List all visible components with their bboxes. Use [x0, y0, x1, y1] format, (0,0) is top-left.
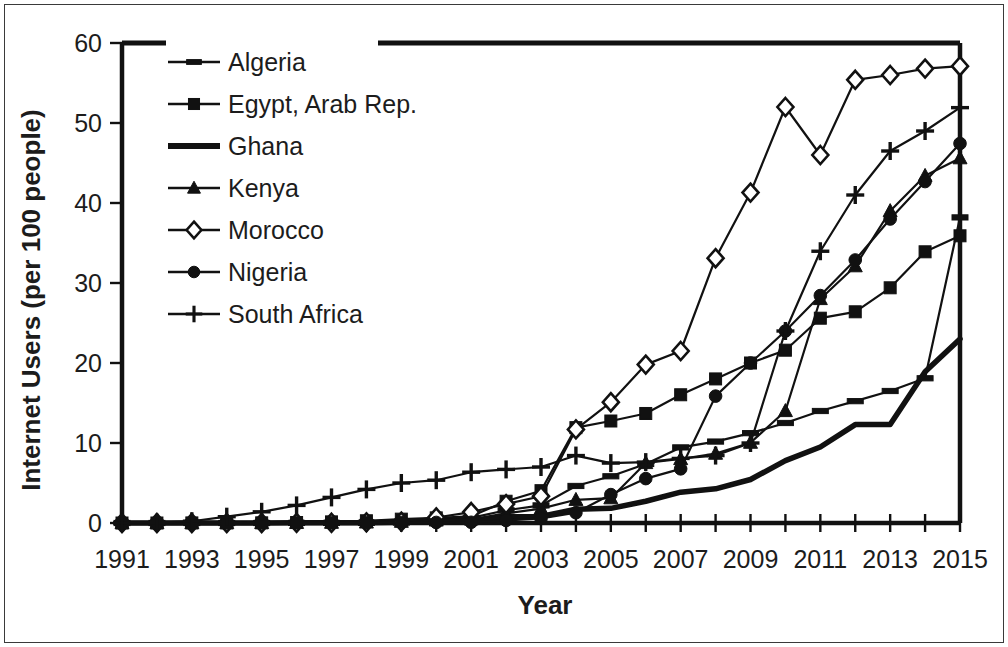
y-axis-tick-label: 50 — [74, 109, 102, 137]
legend-item-label: Kenya — [228, 174, 299, 202]
data-point-marker-circle — [605, 488, 618, 501]
data-point-marker-plus — [427, 471, 445, 489]
legend-item-south-africa[interactable]: South Africa — [168, 300, 363, 328]
legend-item-label: Morocco — [228, 216, 324, 244]
x-axis-tick-label: 1993 — [164, 545, 220, 573]
data-point-marker-circle — [919, 175, 932, 188]
data-point-marker-plus — [916, 122, 934, 140]
data-point-marker-diamond — [882, 66, 898, 84]
data-point-marker-circle — [395, 516, 408, 529]
data-point-marker-circle — [709, 390, 722, 403]
data-point-marker-diamond — [187, 222, 202, 239]
legend-item-morocco[interactable]: Morocco — [168, 216, 324, 244]
data-point-marker-dash — [882, 388, 898, 393]
data-point-marker-diamond — [673, 342, 689, 360]
data-point-marker-circle — [360, 516, 373, 529]
data-point-marker-circle — [849, 254, 862, 267]
y-axis: 0102030405060 — [74, 29, 122, 537]
x-axis-tick-label: 2015 — [932, 545, 988, 573]
legend-item-ghana[interactable]: Ghana — [168, 132, 303, 160]
x-axis-tick-label: 1997 — [304, 545, 360, 573]
data-point-marker-dash — [847, 399, 863, 404]
legend-item-label: Nigeria — [228, 258, 307, 286]
data-point-marker-diamond — [917, 60, 933, 78]
data-point-marker-dash — [187, 60, 202, 65]
legend-item-kenya[interactable]: Kenya — [168, 174, 299, 202]
data-point-marker-dash — [812, 408, 828, 413]
data-point-marker-square — [884, 282, 896, 294]
data-point-marker-plus — [323, 488, 341, 506]
data-point-marker-square — [640, 407, 652, 419]
data-point-marker-square — [675, 389, 687, 401]
chart-figure: 0102030405060 19911993199519971999200120… — [0, 0, 1008, 647]
x-axis-tick-label: 2009 — [723, 545, 779, 573]
data-point-marker-circle — [814, 289, 827, 302]
data-point-marker-dash — [952, 215, 968, 220]
data-point-marker-dash — [708, 439, 724, 444]
data-point-marker-plus — [186, 306, 203, 323]
data-point-marker-plus — [357, 480, 375, 498]
data-point-marker-circle — [639, 472, 652, 485]
data-point-marker-plus — [462, 463, 480, 481]
data-point-marker-plus — [811, 242, 829, 260]
data-point-marker-circle — [570, 506, 583, 519]
data-point-marker-plus — [567, 447, 585, 465]
data-point-marker-diamond — [847, 71, 863, 89]
x-axis-tick-label: 2005 — [583, 545, 639, 573]
legend-item-algeria[interactable]: Algeria — [168, 48, 306, 76]
data-point-marker-square — [188, 98, 199, 109]
data-point-marker-circle — [954, 137, 967, 150]
data-point-marker-circle — [500, 514, 513, 527]
data-point-marker-plus — [288, 496, 306, 514]
x-axis-tick-label: 2011 — [793, 545, 847, 573]
x-axis-title: Year — [518, 590, 573, 620]
legend-item-nigeria[interactable]: Nigeria — [168, 258, 307, 286]
data-point-marker-circle — [325, 517, 338, 530]
y-axis-title: Internet Users (per 100 people) — [16, 109, 46, 490]
x-axis-tick-label: 2007 — [653, 545, 709, 573]
data-point-marker-triangle — [778, 404, 792, 417]
y-axis-tick-label: 0 — [88, 509, 102, 537]
data-point-marker-dash — [673, 445, 689, 450]
chart-legend: AlgeriaEgypt, Arab Rep.GhanaKenyaMorocco… — [168, 48, 417, 328]
data-point-marker-circle — [430, 516, 443, 529]
x-axis-tick-label: 2013 — [862, 545, 918, 573]
y-axis-tick-label: 10 — [74, 429, 102, 457]
data-point-marker-circle — [188, 266, 200, 278]
internet-users-line-chart: 0102030405060 19911993199519971999200120… — [0, 0, 1008, 647]
x-axis-tick-label: 1995 — [234, 545, 290, 573]
data-point-marker-circle — [465, 516, 478, 529]
data-point-marker-triangle — [953, 151, 967, 164]
y-axis-tick-label: 20 — [74, 349, 102, 377]
data-point-marker-square — [954, 230, 966, 242]
data-point-marker-plus — [392, 474, 410, 492]
legend-item-label: Egypt, Arab Rep. — [228, 90, 417, 118]
y-axis-tick-label: 40 — [74, 189, 102, 217]
data-point-marker-dash — [568, 483, 584, 488]
data-point-marker-diamond — [743, 184, 759, 202]
legend-item-label: Algeria — [228, 48, 306, 76]
data-point-marker-square — [710, 373, 722, 385]
x-axis-tick-label: 1991 — [94, 545, 150, 573]
data-point-marker-plus — [532, 458, 550, 476]
data-point-marker-dash — [603, 474, 619, 479]
data-point-marker-square — [849, 306, 861, 318]
data-point-marker-diamond — [952, 57, 968, 75]
data-point-marker-plus — [951, 99, 969, 117]
series-layer — [113, 57, 969, 532]
y-axis-tick-label: 30 — [74, 269, 102, 297]
data-point-marker-plus — [497, 460, 515, 478]
data-point-marker-circle — [884, 213, 897, 226]
data-point-marker-plus — [707, 447, 725, 465]
data-point-marker-diamond — [708, 249, 724, 267]
legend-item-label: Ghana — [228, 132, 303, 160]
x-axis-tick-label: 1999 — [374, 545, 430, 573]
data-point-marker-square — [605, 415, 617, 427]
y-axis-tick-label: 60 — [74, 29, 102, 57]
data-point-marker-circle — [535, 512, 548, 525]
data-point-marker-circle — [290, 517, 303, 530]
x-axis-tick-label: 2003 — [513, 545, 569, 573]
legend-item-egypt-arab-rep[interactable]: Egypt, Arab Rep. — [168, 90, 417, 118]
data-point-marker-plus — [602, 454, 620, 472]
legend-item-label: South Africa — [228, 300, 363, 328]
